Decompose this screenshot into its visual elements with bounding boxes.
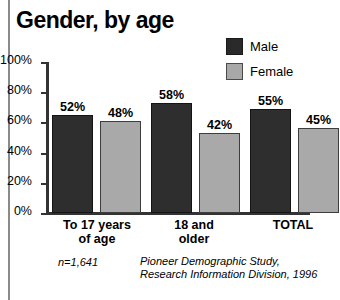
y-tick-label-60: 60% (0, 114, 32, 127)
y-tick-60: 60% (41, 122, 47, 124)
legend-label-male: Male (250, 40, 278, 53)
y-tick-80: 80% (41, 92, 47, 94)
chart-title: Gender, by age (16, 7, 174, 33)
y-tick-label-80: 80% (0, 84, 32, 97)
sample-size-note: n=1,641 (58, 256, 98, 269)
bar-value-male-group-2: 55% (258, 95, 283, 108)
plot-area: 100% 80% 60% 40% 20% 0% 52% 48% To 17 ye… (48, 62, 310, 213)
source-note-line-2: Research Information Division, 1996 (140, 268, 317, 281)
bar-value-female-group-2: 45% (306, 114, 331, 127)
source-note: Pioneer Demographic Study, Research Info… (140, 255, 317, 281)
y-tick-label-40: 40% (0, 145, 32, 158)
category-label-1: 18 and older (147, 218, 241, 246)
legend-swatch-male-icon (226, 38, 243, 55)
category-label-2: TOTAL (246, 218, 340, 232)
bar-value-female-group-1: 42% (207, 119, 232, 132)
bar-female-group-1: 42% (199, 133, 240, 213)
bar-female-group-0: 48% (100, 121, 141, 213)
bar-male-group-2: 55% (250, 109, 291, 213)
category-label-0: To 17 years of age (48, 218, 146, 246)
bar-value-male-group-0: 52% (60, 101, 85, 114)
bar-value-male-group-1: 58% (159, 89, 184, 102)
bar-value-female-group-0: 48% (108, 107, 133, 120)
y-tick-20: 20% (41, 183, 47, 185)
y-tick-40: 40% (41, 153, 47, 155)
y-tick-label-100: 100% (0, 54, 32, 67)
source-note-line-1: Pioneer Demographic Study, (140, 255, 317, 268)
y-tick-0: 0% (41, 213, 47, 215)
y-tick-label-20: 20% (0, 175, 32, 188)
y-tick-100: 100% (41, 62, 47, 64)
y-tick-label-0: 0% (0, 205, 32, 218)
bar-female-group-2: 45% (298, 128, 339, 213)
bar-male-group-0: 52% (52, 115, 93, 213)
legend-item-male: Male (226, 36, 318, 57)
y-axis-line (46, 62, 49, 213)
bar-male-group-1: 58% (151, 103, 192, 213)
